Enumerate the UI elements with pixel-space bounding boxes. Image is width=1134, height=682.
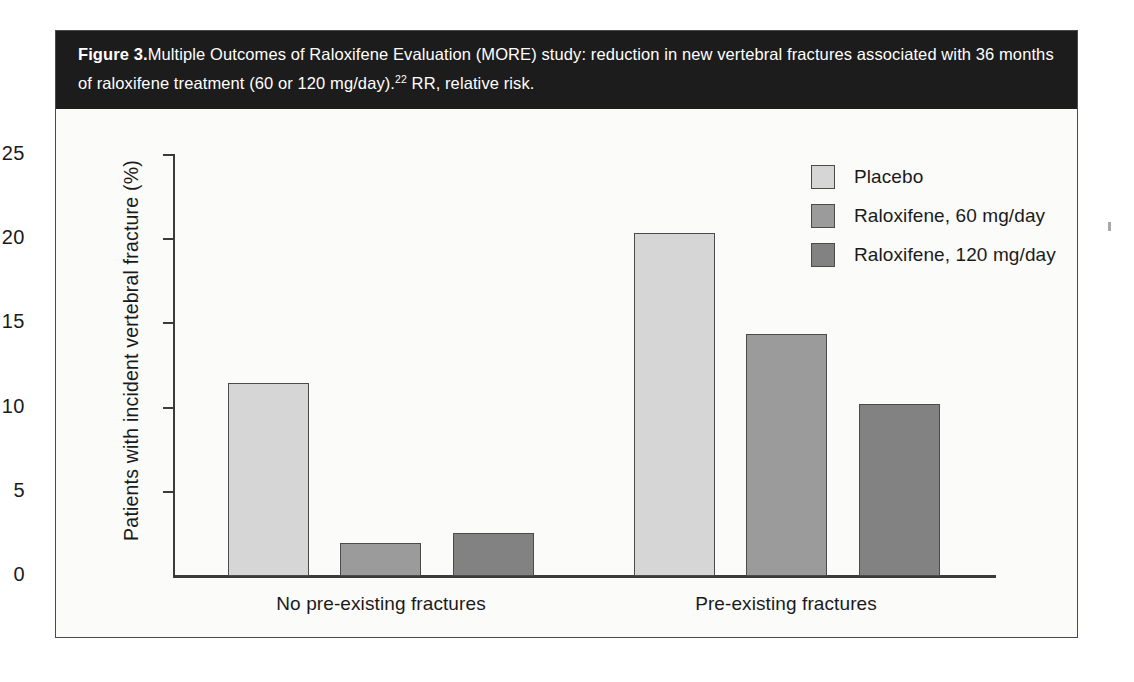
bar-placebo-prior — [634, 233, 715, 576]
bar-placebo-no-prior — [228, 383, 309, 576]
y-tick-10 — [163, 407, 174, 409]
y-tick-25 — [163, 154, 174, 156]
x-group-label-prior: Pre-existing fractures — [616, 593, 956, 615]
y-tick-label-0: 0 — [0, 563, 25, 586]
y-tick-label-15: 15 — [0, 310, 25, 333]
y-axis-line — [173, 154, 175, 577]
figure-caption-bar: Figure 3.Multiple Outcomes of Raloxifene… — [56, 31, 1077, 109]
legend-swatch-raloxifene120 — [811, 243, 835, 267]
x-group-label-no-prior: No pre-existing fractures — [211, 593, 551, 615]
legend-label-placebo: Placebo — [854, 166, 923, 188]
y-tick-15 — [163, 322, 174, 324]
figure-number: Figure 3. — [78, 45, 148, 63]
figure-container: Figure 3.Multiple Outcomes of Raloxifene… — [55, 30, 1078, 638]
bar-raloxifene60-no-prior — [340, 543, 421, 576]
caption-tail: RR, relative risk. — [407, 74, 535, 92]
y-axis-title: Patients with incident vertebral fractur… — [120, 141, 143, 561]
figure-caption: Figure 3.Multiple Outcomes of Raloxifene… — [78, 40, 1055, 98]
y-tick-label-20: 20 — [0, 226, 25, 249]
caption-body: Multiple Outcomes of Raloxifene Evaluati… — [78, 45, 1054, 92]
y-tick-label-5: 5 — [0, 479, 25, 502]
legend-label-raloxifene60: Raloxifene, 60 mg/day — [854, 205, 1045, 227]
bar-raloxifene120-prior — [859, 404, 940, 576]
bar-raloxifene60-prior — [746, 334, 827, 576]
plot-area: 25 20 15 10 5 0 Patients with incident v… — [56, 109, 1077, 637]
bar-raloxifene120-no-prior — [453, 533, 534, 576]
legend-item-raloxifene60: Raloxifene, 60 mg/day — [811, 196, 1056, 235]
legend-swatch-placebo — [811, 165, 835, 189]
legend-item-placebo: Placebo — [811, 157, 1056, 196]
y-tick-label-10: 10 — [0, 395, 25, 418]
chart-legend: Placebo Raloxifene, 60 mg/day Raloxifene… — [811, 157, 1056, 274]
scan-artifact-mark — [1108, 222, 1111, 231]
legend-label-raloxifene120: Raloxifene, 120 mg/day — [854, 244, 1056, 266]
legend-swatch-raloxifene60 — [811, 204, 835, 228]
legend-item-raloxifene120: Raloxifene, 120 mg/day — [811, 235, 1056, 274]
caption-reference: 22 — [395, 73, 407, 85]
y-tick-label-25: 25 — [0, 142, 25, 165]
y-tick-5 — [163, 491, 174, 493]
y-tick-20 — [163, 238, 174, 240]
